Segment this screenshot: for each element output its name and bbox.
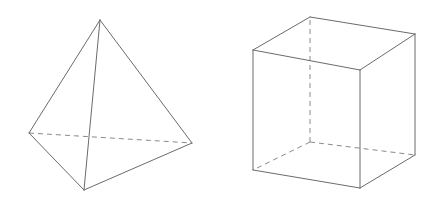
figure-canvas: [0, 0, 437, 207]
polyhedra-diagram: [0, 0, 437, 207]
background-rect: [0, 0, 437, 207]
